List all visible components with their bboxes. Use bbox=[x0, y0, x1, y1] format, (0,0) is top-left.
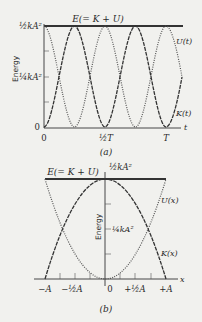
kinetic-energy-label-a: K(t) bbox=[175, 109, 191, 118]
x-tick-zero-a: 0 bbox=[41, 133, 46, 143]
y-axis-label-a: Energy bbox=[11, 55, 20, 82]
x-tick-pos-half-a: +½A bbox=[124, 284, 146, 294]
y-tick-mid-b: ¼kA² bbox=[112, 225, 134, 234]
x-tick-half-period: ½T bbox=[99, 133, 114, 143]
y-tick-top-a: ½kA² bbox=[19, 21, 43, 31]
potential-energy-label-a: U(t) bbox=[176, 37, 192, 46]
total-energy-label-a: E(= K + U) bbox=[71, 14, 124, 24]
y-tick-mid-a: ¼kA² bbox=[19, 72, 43, 82]
x-axis-label-a: t bbox=[184, 123, 188, 132]
panel-b: E(= K + U) ½kA² ¼kA² Energy U(x) K(x) −A… bbox=[34, 162, 185, 314]
energy-figure: E(= K + U) U(t) K(t) ½kA² ¼kA² 0 Energy … bbox=[0, 0, 202, 322]
y-axis-label-b: Energy bbox=[94, 213, 103, 240]
caption-b: (b) bbox=[100, 304, 113, 314]
total-energy-label-b: E(= K + U) bbox=[46, 167, 99, 177]
x-axis-label-b: x bbox=[180, 275, 185, 284]
x-tick-neg-a: −A bbox=[38, 284, 51, 294]
x-tick-pos-a: +A bbox=[159, 284, 172, 294]
x-tick-zero-b: 0 bbox=[107, 284, 112, 294]
x-tick-period: T bbox=[163, 133, 170, 143]
panel-a: E(= K + U) U(t) K(t) ½kA² ¼kA² 0 Energy … bbox=[11, 14, 192, 157]
y-tick-top-b: ½kA² bbox=[109, 162, 133, 172]
kinetic-energy-label-b: K(x) bbox=[160, 249, 178, 258]
kinetic-energy-curve-a bbox=[44, 26, 182, 127]
x-tick-neg-half-a: −½A bbox=[61, 284, 83, 294]
potential-energy-label-b: U(x) bbox=[161, 196, 179, 205]
y-tick-zero-a: 0 bbox=[35, 122, 40, 132]
caption-a: (a) bbox=[100, 147, 113, 157]
